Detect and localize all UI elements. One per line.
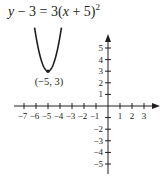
vertex-label: (−5, 3) [35,76,64,88]
vertex-point [46,69,50,73]
x-tick-label: −6 [30,111,40,121]
y-tick-label: 5 [99,43,104,53]
y-tick-label: 3 [99,66,104,76]
x-tick-label: −1 [90,111,100,121]
x-tick-label: −4 [54,111,64,121]
y-tick-label: 1 [99,89,104,99]
x-tick-label: −7 [18,111,28,121]
x-tick-label: −5 [42,111,52,121]
x-tick-label: −3 [66,111,76,121]
y-tick-label: 4 [99,55,104,65]
parabola-curve [35,28,62,72]
coordinate-plane: −7−6−5−4−3−2−1123 54321−2−3−4−5 (−5, 3) [0,0,164,178]
x-tick-label: 2 [130,111,135,121]
y-tick-label: −2 [93,124,103,134]
y-tick-label: −4 [93,147,103,157]
y-tick-label: 2 [99,78,104,88]
x-tick-label: 3 [142,111,147,121]
x-axis-arrow-icon [152,103,160,109]
y-tick-label: −5 [93,159,103,169]
x-tick-label: −2 [78,111,88,121]
y-axis-arrow-icon [105,34,111,42]
x-tick-label: 1 [118,111,123,121]
y-tick-label: −3 [93,136,103,146]
